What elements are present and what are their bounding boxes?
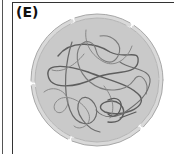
nucleus-diagram xyxy=(0,0,174,154)
nucleoplasm xyxy=(35,18,159,142)
